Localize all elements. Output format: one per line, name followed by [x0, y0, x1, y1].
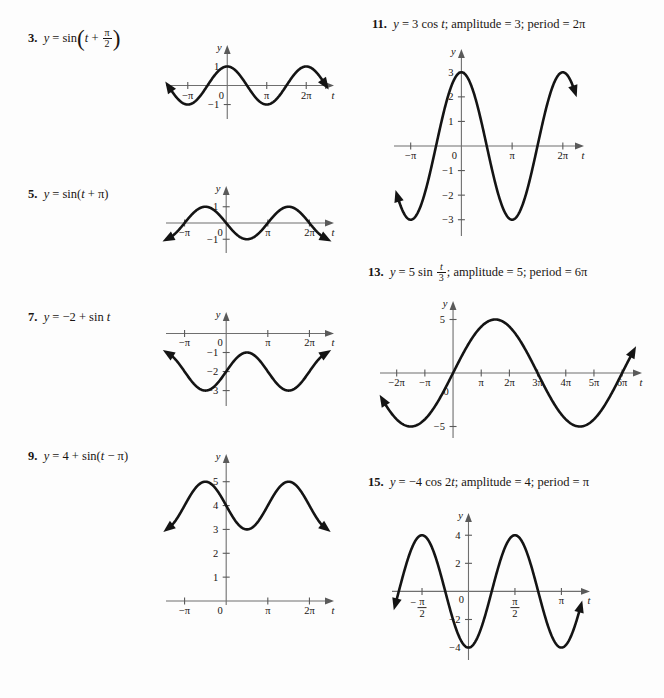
graph-9-svg: yt−π0π2π54321: [148, 443, 340, 631]
problem-11-period: period = 2π: [527, 17, 585, 31]
svg-text:π: π: [559, 595, 565, 606]
problem-5: 5. y = sin(t + π): [28, 188, 109, 201]
graph-7-svg: yt−π0π2π−1−2−3: [148, 303, 340, 428]
graph-13-svg: yt−2π−π0π2π3π4π5π6π5−5: [360, 288, 660, 460]
graph-problem-11: yt−π0π2π321−1−2−3: [368, 38, 598, 260]
problem-15-amplitude: amplitude = 4: [461, 475, 531, 489]
svg-text:π: π: [265, 605, 271, 616]
problem-5-equation: 5. y = sin(t + π): [28, 188, 109, 201]
problem-9-equation: 9. y = 4 + sin(t − π): [28, 450, 128, 463]
graph-problem-13: yt−2π−π0π2π3π4π5π6π5−5: [360, 288, 660, 460]
svg-text:2: 2: [213, 548, 218, 559]
svg-text:5π: 5π: [589, 377, 600, 388]
svg-text:π: π: [509, 150, 515, 161]
problem-7-equation: 7. y = −2 + sin t: [28, 311, 110, 324]
svg-text:y: y: [216, 42, 222, 53]
problem-15-period: period = π: [537, 475, 589, 489]
svg-text:2π: 2π: [558, 150, 569, 161]
svg-text:0: 0: [218, 227, 223, 238]
graph-3-svg: yt−π0π2π1−1: [148, 30, 340, 155]
svg-text:−π: −π: [179, 605, 191, 616]
graph-15-svg: yt−π20π2π42−2−4: [366, 494, 606, 690]
svg-text:t: t: [332, 227, 336, 238]
svg-text:t: t: [588, 595, 592, 606]
graph-problem-3: yt−π0π2π1−1: [148, 30, 340, 155]
svg-text:−1: −1: [207, 234, 218, 245]
svg-text:4: 4: [455, 530, 461, 541]
graph-problem-9: yt−π0π2π54321: [148, 443, 340, 631]
svg-text:−π: −π: [182, 90, 194, 101]
svg-text:π: π: [479, 377, 485, 388]
svg-text:y: y: [215, 183, 221, 194]
svg-text:2: 2: [455, 558, 460, 569]
svg-text:−2: −2: [442, 190, 453, 201]
svg-text:π: π: [264, 90, 270, 101]
problem-11: 11. y = 3 cos t; amplitude = 3; period =…: [372, 18, 585, 31]
svg-text:2π: 2π: [304, 605, 315, 616]
svg-text:−π: −π: [179, 337, 191, 348]
svg-text:0: 0: [218, 337, 223, 348]
svg-text:−1: −1: [207, 347, 218, 358]
svg-text:2: 2: [419, 608, 424, 619]
problem-3-fraction: π 2: [103, 28, 112, 49]
svg-text:3: 3: [213, 524, 218, 535]
textbook-answer-page: 3. y = sin(t + π 2 ) yt−π0π2π1−1 5. y = …: [0, 0, 664, 698]
svg-text:t: t: [332, 90, 336, 101]
svg-text:t: t: [582, 150, 586, 161]
problem-3-equation: 3. y = sin(t + π 2 ): [28, 28, 120, 49]
problem-13: 13. y = 5 sin t 3 ; amplitude = 5; perio…: [368, 262, 587, 283]
problem-9: 9. y = 4 + sin(t − π): [28, 450, 128, 463]
svg-text:0: 0: [459, 594, 464, 605]
svg-text:y: y: [215, 309, 221, 320]
svg-text:2π: 2π: [304, 337, 315, 348]
svg-text:π: π: [265, 227, 271, 238]
problem-13-equation: 13. y = 5 sin t 3 ; amplitude = 5; perio…: [368, 262, 587, 283]
svg-text:−4: −4: [449, 642, 461, 653]
svg-text:4: 4: [213, 500, 219, 511]
svg-text:t: t: [640, 377, 644, 388]
problem-13-amplitude: amplitude = 5: [453, 265, 523, 279]
graph-problem-15: yt−π20π2π42−2−4: [366, 494, 606, 690]
problem-15-equation: 15. y = −4 cos 2t; amplitude = 4; period…: [368, 476, 589, 489]
svg-text:−1: −1: [208, 99, 219, 110]
svg-text:−3: −3: [442, 214, 453, 225]
svg-text:1: 1: [448, 116, 453, 127]
problem-13-fraction: t 3: [437, 262, 446, 283]
svg-text:3: 3: [448, 67, 453, 78]
svg-text:2π: 2π: [301, 90, 312, 101]
svg-text:2π: 2π: [504, 377, 515, 388]
svg-text:t: t: [332, 337, 336, 348]
svg-text:y: y: [450, 46, 456, 57]
svg-text:0: 0: [452, 150, 457, 161]
problem-15: 15. y = −4 cos 2t; amplitude = 4; period…: [368, 476, 589, 489]
svg-text:−2: −2: [207, 366, 218, 377]
svg-text:2: 2: [512, 608, 517, 619]
problem-3-number: 3.: [28, 31, 37, 45]
graph-problem-5: yt−π0π2π1−1: [148, 175, 340, 285]
svg-text:−π: −π: [405, 150, 417, 161]
svg-text:5: 5: [440, 314, 445, 325]
svg-text:−: −: [411, 597, 417, 608]
problem-11-equation: 11. y = 3 cos t; amplitude = 3; period =…: [372, 18, 585, 31]
svg-text:−2π: −2π: [388, 377, 405, 388]
svg-text:y: y: [442, 298, 448, 309]
problem-7: 7. y = −2 + sin t: [28, 311, 110, 324]
graph-5-svg: yt−π0π2π1−1: [148, 175, 340, 285]
svg-text:−π: −π: [419, 377, 431, 388]
svg-text:1: 1: [213, 572, 218, 583]
svg-text:π: π: [512, 596, 518, 607]
svg-text:t: t: [332, 605, 336, 616]
svg-text:−1: −1: [442, 165, 453, 176]
svg-text:π: π: [265, 337, 271, 348]
svg-text:4π: 4π: [560, 377, 571, 388]
graph-11-svg: yt−π0π2π321−1−2−3: [368, 38, 598, 260]
svg-text:−5: −5: [434, 421, 445, 432]
problem-3: 3. y = sin(t + π 2 ): [28, 28, 120, 49]
svg-text:0: 0: [218, 605, 223, 616]
problem-13-period: period = 6π: [530, 265, 588, 279]
svg-text:0: 0: [219, 90, 224, 101]
problem-11-amplitude: amplitude = 3: [451, 17, 521, 31]
graph-problem-7: yt−π0π2π−1−2−3: [148, 303, 340, 428]
svg-text:y: y: [215, 451, 221, 462]
svg-text:π: π: [419, 596, 425, 607]
